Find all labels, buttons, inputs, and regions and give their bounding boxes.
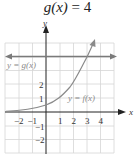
f-curve-label: y = f(x) [67, 93, 95, 103]
y-axis-label: y [42, 18, 47, 28]
x-tick: 2 [72, 116, 77, 126]
x-tick: −2 [14, 116, 24, 126]
y-tick: 2 [39, 80, 44, 90]
g-right-arrow-icon [110, 54, 117, 60]
x-tick: 3 [85, 116, 90, 126]
y-tick: −2 [35, 135, 45, 145]
y-tick: −1 [35, 122, 45, 132]
g-left-arrow-icon [5, 54, 12, 60]
g-line-label: y = g(x) [6, 60, 36, 70]
x-axis-arrow-icon [118, 109, 126, 115]
x-tick: 4 [99, 116, 104, 126]
axes [5, 30, 121, 154]
x-tick-labels: −2 −1 1 2 3 4 [14, 116, 104, 126]
chart-plot: y x y = g(x) y = f(x) −2 −1 1 2 3 4 −2 −… [0, 0, 135, 155]
y-tick: 1 [39, 94, 44, 104]
x-tick: 1 [58, 116, 63, 126]
x-axis-label: x [128, 107, 133, 117]
